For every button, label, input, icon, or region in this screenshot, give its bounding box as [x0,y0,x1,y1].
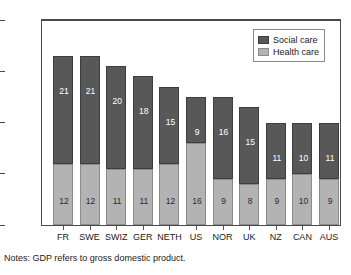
legend-item[interactable]: Social care [258,34,319,45]
bar-segment-health-care[interactable]: 11 [133,169,153,225]
figure-note: Notes: GDP refers to gross domestic prod… [4,253,185,263]
x-axis-tick-mark [169,226,170,230]
bar-group[interactable]: 916 [213,97,233,225]
bar-group[interactable]: 1120 [106,66,126,225]
bar-value-label: 16 [214,128,234,137]
bar-group[interactable]: 911 [266,123,286,226]
bar-value-label: 21 [54,87,74,96]
x-axis-tick-mark [196,226,197,230]
bar-segment-social-care[interactable]: 15 [159,87,179,164]
x-axis-tick-label: AUS [309,232,349,242]
bar-group[interactable]: 1221 [80,56,100,225]
y-axis-tick-mark [0,122,5,123]
bar-group[interactable]: 815 [239,107,259,225]
x-axis-tick-mark [116,226,117,230]
bar-value-label: 10 [293,197,313,206]
bar-value-label: 12 [160,197,180,206]
bar-value-label: 20 [107,97,127,106]
bar-segment-health-care[interactable]: 12 [80,164,100,226]
bar-group[interactable]: 1010 [292,123,312,226]
x-axis-tick-mark [223,226,224,230]
bar-segment-health-care[interactable]: 9 [213,179,233,225]
bar-value-label: 11 [267,154,287,163]
bar-value-label: 18 [134,107,154,116]
chart-legend: Social careHealth care [253,29,325,62]
legend-label: Health care [273,47,319,57]
bar-segment-social-care[interactable]: 11 [266,123,286,179]
legend-item[interactable]: Health care [258,46,319,57]
bar-value-label: 11 [134,197,154,206]
bar-segment-health-care[interactable]: 9 [266,179,286,225]
bar-value-label: 15 [240,138,260,147]
bar-value-label: 10 [293,154,313,163]
bar-value-label: 11 [320,154,340,163]
x-axis-tick-mark [329,226,330,230]
bar-segment-social-care[interactable]: 11 [319,123,339,179]
bar-segment-social-care[interactable]: 9 [186,97,206,143]
bar-segment-social-care[interactable]: 21 [53,56,73,164]
bar-value-label: 9 [320,197,340,206]
bar-segment-health-care[interactable]: 10 [292,174,312,225]
bar-value-label: 21 [81,87,101,96]
y-axis-tick-mark [0,20,5,21]
bar-group[interactable]: 1221 [53,56,73,225]
bar-segment-health-care[interactable]: 8 [239,184,259,225]
bar-value-label: 11 [107,197,127,206]
y-axis-tick-mark [0,173,5,174]
x-axis-tick-mark [249,226,250,230]
bar-group[interactable]: 1118 [133,76,153,225]
bar-segment-health-care[interactable]: 12 [53,164,73,226]
bar-value-label: 16 [187,197,207,206]
bar-segment-social-care[interactable]: 16 [213,97,233,179]
bar-segment-health-care[interactable]: 11 [106,169,126,225]
bar-value-label: 15 [160,118,180,127]
x-axis-tick-mark [63,226,64,230]
bar-value-label: 9 [187,128,207,137]
legend-swatch-health-icon [258,48,269,56]
bar-group[interactable]: 911 [319,123,339,226]
bar-group[interactable]: 1215 [159,87,179,225]
chart-figure: 0%10%20%30%40% 1221122111201118121516991… [0,0,351,275]
bar-segment-health-care[interactable]: 9 [319,179,339,225]
bar-group[interactable]: 169 [186,97,206,225]
y-axis-tick-mark [0,71,5,72]
bar-value-label: 12 [54,197,74,206]
x-axis-tick-mark [143,226,144,230]
legend-swatch-social-icon [258,36,269,44]
x-axis-tick-mark [302,226,303,230]
x-axis-tick-mark [90,226,91,230]
y-axis-tick-mark [0,225,5,226]
bar-value-label: 8 [240,197,260,206]
bar-value-label: 12 [81,197,101,206]
legend-label: Social care [273,35,318,45]
bar-segment-social-care[interactable]: 21 [80,56,100,164]
bar-segment-social-care[interactable]: 18 [133,76,153,168]
bar-segment-social-care[interactable]: 20 [106,66,126,169]
x-axis: FRSWESWIZGERNETHUSNORUKNZCANAUS [42,226,340,248]
bar-value-label: 9 [267,197,287,206]
bar-segment-social-care[interactable]: 10 [292,123,312,174]
bar-segment-health-care[interactable]: 16 [186,143,206,225]
x-axis-tick-mark [276,226,277,230]
y-axis: 0%10%20%30%40% [0,0,41,245]
bar-value-label: 9 [214,197,234,206]
bar-segment-health-care[interactable]: 12 [159,164,179,226]
bar-segment-social-care[interactable]: 15 [239,107,259,184]
